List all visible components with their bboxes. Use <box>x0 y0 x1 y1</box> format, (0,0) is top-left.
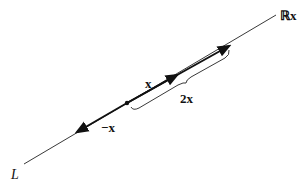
diagram-svg <box>0 0 308 184</box>
vector-neg-x-label: −x <box>101 121 115 134</box>
vector-x <box>127 75 177 103</box>
vector-2x-label: 2x <box>180 92 193 105</box>
span-text: ℝx <box>280 8 297 23</box>
diagram-canvas: ℝx x 2x −x L <box>0 0 308 184</box>
vector-x-label: x <box>145 77 152 90</box>
origin-dot <box>125 101 129 105</box>
line-name-label: L <box>11 168 19 182</box>
span-label: ℝx <box>280 9 297 22</box>
